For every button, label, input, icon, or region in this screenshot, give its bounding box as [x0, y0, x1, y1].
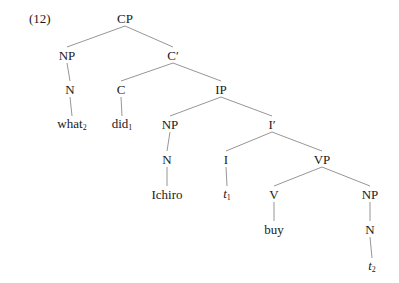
tree-node-np1: NP — [59, 49, 76, 62]
node-subscript: 1 — [128, 123, 132, 132]
tree-node-vp: VP — [314, 153, 331, 166]
tree-node-t1: t1 — [223, 187, 231, 202]
branch-cbar-c — [121, 63, 173, 81]
branch-vp-np3 — [322, 167, 370, 186]
branch-cbar-ip — [173, 63, 221, 81]
tree-node-np2: NP — [162, 118, 179, 131]
tree-node-v: V — [269, 188, 278, 201]
node-label: Ichiro — [151, 187, 182, 202]
node-label: V — [269, 187, 278, 202]
node-label: what — [57, 116, 82, 131]
tree-node-n2: N — [162, 153, 171, 166]
tree-node-c: C — [117, 83, 126, 96]
tree-node-ichiro: Ichiro — [151, 188, 182, 201]
node-label: C — [117, 82, 126, 97]
branch-np2-n2 — [167, 132, 170, 151]
syntax-tree-diagram: (12) CPNPC′NCIPwhat2did1NPI′NIVPIchirot1… — [0, 0, 399, 283]
node-subscript: 1 — [227, 193, 231, 202]
branch-cp-cbar — [125, 26, 173, 47]
tree-node-did: did1 — [112, 117, 133, 132]
tree-branches — [0, 0, 399, 283]
branch-np1-n1 — [67, 63, 70, 81]
branch-cp-np1 — [67, 26, 125, 47]
tree-node-n1: N — [65, 83, 74, 96]
node-label: NP — [162, 117, 179, 132]
example-number: (12) — [29, 12, 51, 25]
tree-node-ibar: I′ — [268, 118, 275, 131]
node-label: N — [65, 82, 74, 97]
branch-i-t1 — [226, 167, 227, 186]
node-label: did — [112, 116, 129, 131]
branch-c-did — [121, 97, 122, 116]
tree-node-buy: buy — [264, 223, 284, 236]
node-label: IP — [215, 82, 227, 97]
tree-node-what: what2 — [57, 117, 86, 132]
node-label: NP — [362, 187, 379, 202]
node-label: N — [365, 222, 374, 237]
branch-n3-t2 — [370, 237, 372, 258]
node-label: N — [162, 152, 171, 167]
branch-ibar-i — [226, 132, 272, 151]
node-label: I — [224, 152, 228, 167]
tree-node-np3: NP — [362, 188, 379, 201]
node-label: VP — [314, 152, 331, 167]
branch-ibar-vp — [272, 132, 322, 151]
node-subscript: 2 — [372, 265, 376, 274]
tree-node-n3: N — [365, 223, 374, 236]
branch-ip-ibar — [221, 97, 272, 116]
node-subscript: 2 — [83, 123, 87, 132]
tree-node-ip: IP — [215, 83, 227, 96]
node-label: CP — [117, 11, 133, 26]
tree-node-cbar: C′ — [167, 49, 179, 62]
node-label: buy — [264, 222, 284, 237]
tree-node-i: I — [224, 153, 228, 166]
branch-n1-what — [70, 97, 72, 116]
node-label: NP — [59, 48, 76, 63]
branch-ip-np2 — [170, 97, 221, 116]
tree-node-cp: CP — [117, 12, 133, 25]
tree-node-t2: t2 — [368, 259, 376, 274]
branch-vp-v — [274, 167, 322, 186]
node-label: C′ — [167, 48, 179, 63]
node-label: I′ — [268, 117, 275, 132]
